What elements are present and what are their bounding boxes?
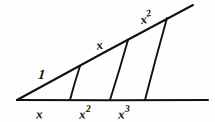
label-base-x-squared-sup: 2 <box>85 103 91 114</box>
label-base-x-cubed: x3 <box>118 104 131 122</box>
label-one-base: 1 <box>37 68 45 82</box>
label-one: 1 <box>37 66 47 83</box>
label-base-x: x <box>36 104 44 122</box>
label-base-x-cubed-sup: 3 <box>124 103 130 114</box>
transversal-2 <box>110 40 128 100</box>
transversal-3 <box>145 18 167 100</box>
figure-canvas <box>0 0 215 122</box>
label-base-x-base: x <box>36 106 43 121</box>
label-base-x-squared: x2 <box>79 104 92 122</box>
geometry-figure: 1 x x2 x x2 x3 <box>0 0 215 122</box>
